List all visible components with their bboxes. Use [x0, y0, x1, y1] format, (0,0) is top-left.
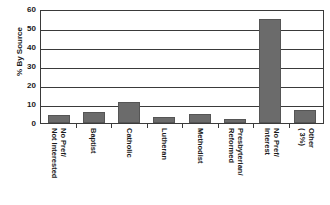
- bar: [48, 115, 70, 123]
- x-axis-category-labels: No Pref/Not InterestedBaptistCatholicLut…: [40, 128, 324, 204]
- x-axis-label-line: Reformed: [227, 128, 236, 176]
- bar-cell: [147, 11, 182, 123]
- y-axis-tick-label: 60: [16, 6, 36, 14]
- bar-chart: % By Source 6050403020100 No Pref/Not In…: [0, 0, 330, 205]
- x-axis-label-cell: No Pref/Not Interested: [40, 128, 76, 204]
- bar-cell: [182, 11, 217, 123]
- x-axis-label-line: Presbyterian/: [235, 128, 244, 176]
- bar: [259, 19, 281, 124]
- x-axis-category-label: No Pref/Interest: [262, 128, 279, 157]
- x-axis-label-line: Baptist: [89, 128, 98, 153]
- x-axis-label-cell: Lutheran: [147, 128, 183, 204]
- bar-series: [41, 11, 323, 123]
- x-axis-category-label: Presbyterian/Reformed: [227, 128, 244, 176]
- x-axis-label-line: ( 3%): [298, 128, 307, 148]
- x-axis-category-label: Other( 3%): [298, 128, 315, 148]
- bar-cell: [112, 11, 147, 123]
- plot-area: [40, 10, 324, 124]
- x-axis-label-line: No Pref/: [58, 128, 67, 178]
- bar: [294, 110, 316, 123]
- x-axis-label-cell: Presbyterian/Reformed: [218, 128, 254, 204]
- y-axis-tick-label: 40: [16, 44, 36, 52]
- y-axis-tick-label: 20: [16, 82, 36, 90]
- x-axis-label-line: Lutheran: [160, 128, 169, 160]
- bar-cell: [76, 11, 111, 123]
- bar: [224, 119, 246, 123]
- bar-cell: [41, 11, 76, 123]
- x-axis-category-label: No Pref/Not Interested: [49, 128, 66, 178]
- x-axis-label-line: Methodist: [196, 128, 205, 163]
- x-axis-label-cell: Catholic: [111, 128, 147, 204]
- x-axis-label-cell: No Pref/Interest: [253, 128, 289, 204]
- bar: [118, 102, 140, 123]
- y-axis-tick-label: 0: [16, 120, 36, 128]
- x-axis-label-line: Interest: [262, 128, 271, 157]
- y-axis-tick-label: 30: [16, 63, 36, 71]
- x-axis-label-line: Other: [306, 128, 315, 148]
- bar: [83, 112, 105, 123]
- y-axis-tick-label: 10: [16, 101, 36, 109]
- x-axis-label-cell: Baptist: [76, 128, 112, 204]
- x-axis-category-label: Lutheran: [160, 128, 169, 160]
- bar: [153, 117, 175, 123]
- x-axis-label-line: Catholic: [125, 128, 134, 158]
- bar-cell: [288, 11, 323, 123]
- x-axis-category-label: Methodist: [196, 128, 205, 163]
- x-axis-label-cell: Other( 3%): [289, 128, 325, 204]
- x-axis-label-line: No Pref/: [271, 128, 280, 157]
- y-axis-tick-labels: 6050403020100: [16, 10, 36, 124]
- x-axis-label-line: Not Interested: [49, 128, 58, 178]
- x-axis-category-label: Baptist: [89, 128, 98, 153]
- x-axis-category-label: Catholic: [125, 128, 134, 158]
- bar-cell: [217, 11, 252, 123]
- bar-cell: [253, 11, 288, 123]
- x-axis-label-cell: Methodist: [182, 128, 218, 204]
- y-axis-tick-label: 50: [16, 25, 36, 33]
- bar: [189, 114, 211, 124]
